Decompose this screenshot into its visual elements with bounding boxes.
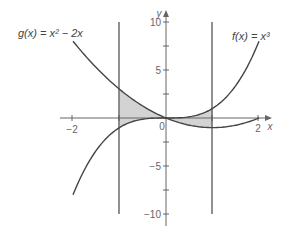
y-axis-label: y [156,8,163,19]
chart-canvas: −2 0 2 x 10 5 −5 −10 y g(x) = x² − 2x f(… [0,0,290,232]
y-tick-label-5: 5 [155,65,161,76]
x-tick-label-2: 2 [255,123,261,134]
y-tick-label-neg5: −5 [150,161,162,172]
g-function-label: g(x) = x² − 2x [18,27,83,39]
y-axis-arrow-icon [163,10,169,17]
x-tick-label-neg2: −2 [66,124,78,135]
x-axis-label: x [267,121,274,132]
f-function-label: f(x) = x³ [232,30,270,42]
y-tick-label-neg10: −10 [144,209,161,220]
x-tick-label-0: 0 [159,121,165,132]
